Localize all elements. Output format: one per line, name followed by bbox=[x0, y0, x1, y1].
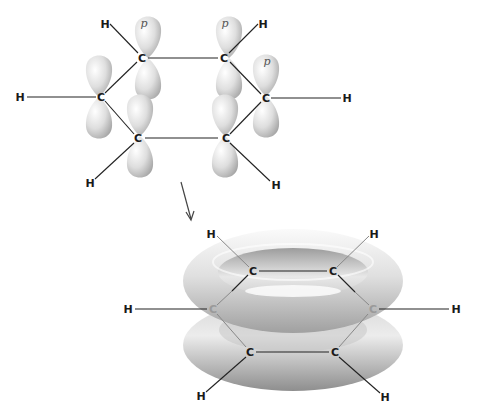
carbon-atom: C bbox=[329, 265, 337, 278]
hydrogen-atom: H bbox=[85, 177, 94, 190]
top-bonds bbox=[27, 24, 341, 181]
carbon-atom: C bbox=[222, 132, 230, 145]
hydrogen-atom: H bbox=[123, 303, 132, 316]
hydrogen-atom: H bbox=[271, 179, 280, 192]
hydrogen-atom: H bbox=[380, 391, 389, 404]
hydrogen-atom: H bbox=[258, 18, 267, 31]
p-orbital-label: p bbox=[221, 17, 228, 30]
arrow-icon bbox=[181, 182, 194, 220]
hydrogen-atom: H bbox=[100, 18, 109, 31]
carbon-atom: C bbox=[134, 132, 142, 145]
hydrogen-atom: H bbox=[369, 228, 378, 241]
p-orbitals bbox=[86, 17, 279, 178]
carbon-atom: C bbox=[262, 92, 270, 105]
hydrogen-atom: H bbox=[342, 92, 351, 105]
benzene-diagram: C C C C C C H H H H H H p p p bbox=[0, 0, 477, 415]
carbon-atom: C bbox=[369, 303, 377, 316]
p-orbital-label: p bbox=[263, 55, 270, 68]
hydrogen-atom: H bbox=[206, 228, 215, 241]
carbon-atom: C bbox=[246, 346, 254, 359]
carbon-atom: C bbox=[97, 91, 105, 104]
hydrogen-atom: H bbox=[196, 390, 205, 403]
carbon-atom: C bbox=[249, 265, 257, 278]
hydrogen-atom: H bbox=[451, 303, 460, 316]
p-orbital-label: p bbox=[140, 17, 147, 30]
top-atoms: C C C C C C H H H H H H p p p bbox=[15, 17, 351, 192]
carbon-atom: C bbox=[331, 346, 339, 359]
carbon-atom: C bbox=[138, 52, 146, 65]
carbon-atom: C bbox=[220, 52, 228, 65]
carbon-atom: C bbox=[209, 303, 217, 316]
hydrogen-atom: H bbox=[15, 91, 24, 104]
